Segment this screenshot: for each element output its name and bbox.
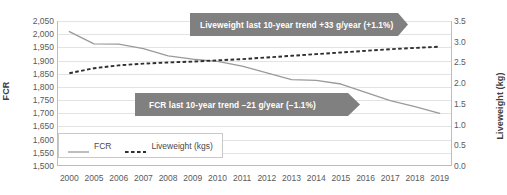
y-axis-left-tick-label: 1,750 — [33, 96, 54, 105]
x-axis-tick-label: 2016 — [353, 174, 379, 183]
x-axis-tick-label: 2006 — [106, 174, 132, 183]
x-axis-tick-label: 2015 — [328, 174, 354, 183]
y-axis-right-tick-label: 3.0 — [454, 38, 466, 47]
y-axis-right-tick-label: 0.5 — [454, 141, 466, 150]
chart-legend: FCRLiveweight (kgs) — [58, 133, 223, 158]
x-axis-tick-label: 2008 — [155, 174, 181, 183]
x-axis-tick-label: 2007 — [130, 174, 156, 183]
x-axis-tick-label: 2013 — [279, 174, 305, 183]
y-axis-left-tick-label: 1,650 — [33, 122, 54, 131]
y-axis-left-ticks: 2,0502,0001,9501,9001,8501,8001,7501,700… — [24, 0, 54, 195]
y-axis-left-tick-label: 1,500 — [33, 162, 54, 171]
y-axis-left-tick-label: 2,050 — [33, 17, 54, 26]
y-axis-right-tick-label: 1.0 — [454, 121, 466, 130]
x-axis-tick-label: 2005 — [81, 174, 107, 183]
legend-label: Liveweight (kgs) — [151, 141, 212, 151]
chart-container: FCR Liveweight (kg) 2,0502,0001,9501,900… — [0, 0, 507, 195]
legend-entry[interactable]: Liveweight (kgs) — [125, 141, 212, 151]
y-axis-left-tick-label: 1,900 — [33, 57, 54, 66]
y-axis-left-tick-label: 1,700 — [33, 109, 54, 118]
x-axis-tick-label: 2009 — [180, 174, 206, 183]
x-axis-tick-label: 2012 — [254, 174, 280, 183]
y-axis-left-tick-label: 1,550 — [33, 149, 54, 158]
y-axis-left-tick-label: 1,950 — [33, 43, 54, 52]
y-axis-left-tick-label: 2,000 — [33, 30, 54, 39]
y-axis-right-tick-label: 2.0 — [454, 79, 466, 88]
x-axis-tick-label: 2018 — [402, 174, 428, 183]
legend-entry[interactable]: FCR — [68, 141, 111, 151]
annotation-fcr-trend: FCR last 10-year trend −21 g/year (−1.1%… — [135, 93, 360, 116]
y-axis-right-tick-label: 0.0 — [454, 162, 466, 171]
x-axis-tick-label: 2019 — [427, 174, 453, 183]
x-axis-tick-label: 2011 — [229, 174, 255, 183]
legend-label: FCR — [94, 141, 111, 151]
y-axis-left-tick-label: 1,800 — [33, 83, 54, 92]
y-axis-right-tick-label: 3.5 — [454, 17, 466, 26]
y-axis-left-tick-label: 1,600 — [33, 136, 54, 145]
y-axis-right-tick-label: 2.5 — [454, 58, 466, 67]
y-axis-left-tick-label: 1,850 — [33, 70, 54, 79]
y-axis-right-title: Liveweight (kg) — [495, 57, 505, 155]
x-axis-tick-label: 2017 — [377, 174, 403, 183]
y-axis-right-ticks: 3.53.02.52.01.51.00.50.0 — [454, 0, 484, 195]
x-axis-tick-label: 2010 — [204, 174, 230, 183]
x-axis-tick-label: 2014 — [303, 174, 329, 183]
legend-swatch-icon — [125, 142, 146, 150]
x-axis-tick-label: 2000 — [56, 174, 82, 183]
legend-swatch-icon — [68, 142, 89, 150]
y-axis-right-tick-label: 1.5 — [454, 100, 466, 109]
annotation-liveweight-trend: Liveweight last 10-year trend +33 g/year… — [190, 13, 408, 36]
x-axis-ticks: 2000200520062007200820092010201120122013… — [57, 170, 452, 192]
y-axis-left-title: FCR — [1, 68, 11, 114]
